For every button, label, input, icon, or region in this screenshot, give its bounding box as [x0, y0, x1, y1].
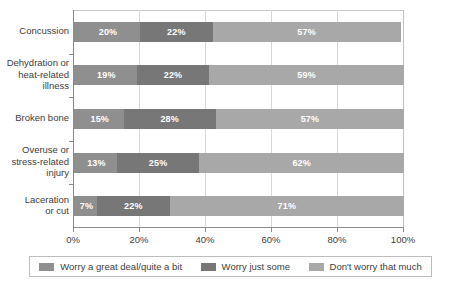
bar-segment-value-label: 59% [297, 70, 316, 80]
bar-segment-value-label: 22% [167, 27, 186, 37]
legend-label-series-0: Worry a great deal/quite a bit [60, 261, 182, 272]
x-axis-tick-label: 0% [66, 234, 80, 245]
bar-segment[interactable]: 22% [140, 22, 213, 42]
x-axis-line [73, 227, 404, 228]
bar-segment-value-label: 28% [160, 114, 179, 124]
x-axis-tick-label: 60% [261, 234, 280, 245]
bar-segment-value-label: 57% [297, 27, 316, 37]
x-axis-tick-label: 100% [391, 234, 415, 245]
bar-segment[interactable]: 62% [199, 153, 404, 173]
bar-group: 13%25%62% [74, 153, 404, 173]
bar-group: 19%22%59% [74, 65, 404, 85]
bar-group: 7%22%71% [74, 196, 404, 216]
y-axis-category-label: Lacerationor cut [0, 194, 69, 217]
plot-area: 20%22%57%19%22%59%15%28%57%13%25%62%7%22… [73, 10, 404, 228]
bar-segment-value-label: 19% [95, 70, 116, 80]
bar-segment[interactable]: 28% [124, 109, 216, 129]
y-axis-category-label: Concussion [0, 25, 69, 37]
x-axis-tick-mark [73, 228, 74, 232]
legend-swatch-series-0-icon [39, 263, 54, 271]
bar-segment-value-label: 7% [78, 201, 93, 211]
y-axis-tick-mark [69, 184, 73, 185]
y-axis-category-label: Broken bone [0, 112, 69, 124]
bar-segment[interactable]: 13% [74, 153, 117, 173]
y-axis-category-label: Overuse orstress-relatedinjury [0, 144, 69, 179]
bar-segment[interactable]: 57% [216, 109, 404, 129]
plot-top-border [73, 10, 404, 11]
bar-segment[interactable]: 59% [209, 65, 404, 85]
bar-segment[interactable]: 15% [74, 109, 124, 129]
bar-group: 15%28%57% [74, 109, 404, 129]
chart-legend: Worry a great deal/quite a bit Worry jus… [29, 256, 432, 277]
legend-label-series-2: Don't worry that much [330, 261, 422, 272]
bar-segment[interactable]: 22% [97, 196, 170, 216]
legend-item[interactable]: Worry just some [201, 261, 290, 272]
bar-segment[interactable]: 22% [137, 65, 210, 85]
x-axis-tick-label: 40% [195, 234, 214, 245]
y-axis-tick-mark [69, 54, 73, 55]
bar-segment-value-label: 62% [292, 158, 311, 168]
bar-segment-value-label: 22% [164, 70, 183, 80]
bar-segment[interactable]: 20% [74, 22, 140, 42]
bar-segment-value-label: 71% [278, 201, 297, 211]
y-axis-tick-mark [69, 97, 73, 98]
chart-title [0, 0, 449, 4]
x-axis-tick-mark [403, 228, 404, 232]
legend-label-series-1: Worry just some [222, 261, 290, 272]
x-axis-tick-label: 20% [129, 234, 148, 245]
bar-segment[interactable]: 71% [170, 196, 404, 216]
bar-segment-value-label: 20% [97, 27, 118, 37]
bar-segment-value-label: 25% [149, 158, 168, 168]
bar-segment-value-label: 22% [124, 201, 143, 211]
x-axis-tick-mark [205, 228, 206, 232]
bar-segment[interactable]: 19% [74, 65, 137, 85]
bar-group: 20%22%57% [74, 22, 401, 42]
bar-segment-value-label: 57% [301, 114, 320, 124]
bar-segment-value-label: 13% [85, 158, 106, 168]
x-axis-tick-label: 80% [327, 234, 346, 245]
x-axis-tick-mark [337, 228, 338, 232]
bar-segment-value-label: 15% [88, 114, 109, 124]
x-axis-tick-mark [139, 228, 140, 232]
legend-swatch-series-2-icon [309, 263, 324, 271]
bar-segment[interactable]: 57% [213, 22, 401, 42]
legend-item[interactable]: Worry a great deal/quite a bit [39, 261, 182, 272]
legend-swatch-series-1-icon [201, 263, 216, 271]
bar-segment[interactable]: 7% [74, 196, 97, 216]
y-axis-category-label: Dehydration orheat-relatedillness [0, 57, 69, 92]
x-axis-tick-mark [271, 228, 272, 232]
y-axis-tick-mark [69, 141, 73, 142]
stacked-bar-chart: ConcussionDehydration orheat-relatedilln… [0, 0, 449, 285]
legend-item[interactable]: Don't worry that much [309, 261, 422, 272]
bar-segment[interactable]: 25% [117, 153, 200, 173]
